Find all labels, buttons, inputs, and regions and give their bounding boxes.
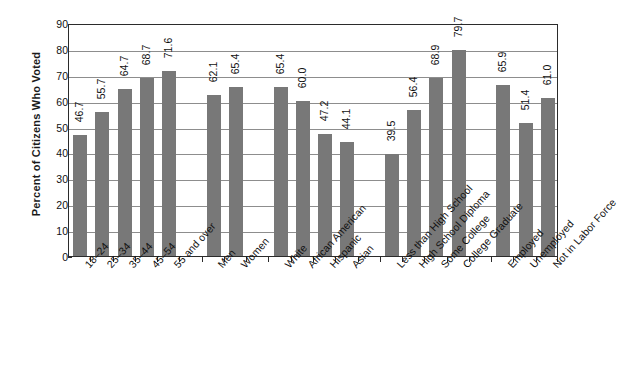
bar-value-label: 55.7 — [95, 72, 107, 106]
y-tick-label: 60 — [14, 97, 68, 107]
y-tick-label: 80 — [14, 45, 68, 55]
y-tick-label: 10 — [14, 226, 68, 236]
y-tick-label: 90 — [14, 19, 68, 29]
bar-slot: 61.0 — [537, 25, 559, 256]
bar-value-label: 68.7 — [140, 38, 152, 72]
bar[interactable] — [274, 87, 288, 256]
bar-value-label: 65.4 — [274, 47, 286, 81]
bar-value-label: 61.0 — [541, 58, 553, 92]
bar-value-label: 62.1 — [207, 55, 219, 89]
bar-slot: 55.7 — [91, 25, 113, 256]
y-tick-label: 30 — [14, 174, 68, 184]
y-axis-ticks: 0102030405060708090 — [0, 24, 68, 257]
bar-value-label: 47.2 — [318, 94, 330, 128]
bar-value-label: 79.7 — [452, 10, 464, 44]
bar[interactable] — [73, 135, 87, 256]
bar-slot: 65.4 — [225, 25, 247, 256]
bar-value-label: 46.7 — [73, 95, 85, 129]
y-tick-label: 50 — [14, 123, 68, 133]
bar[interactable] — [296, 101, 310, 256]
bar-slot: 39.5 — [381, 25, 403, 256]
bar[interactable] — [162, 71, 176, 256]
bar-slot: 68.7 — [136, 25, 158, 256]
bar-value-label: 39.5 — [385, 114, 397, 148]
y-tick-label: 40 — [14, 148, 68, 158]
bar-slot: 51.4 — [514, 25, 536, 256]
y-tick-label: 20 — [14, 200, 68, 210]
y-tick-label: 70 — [14, 71, 68, 81]
bar[interactable] — [118, 89, 132, 257]
y-tick-label: 0 — [14, 252, 68, 262]
bar-value-label: 64.7 — [118, 49, 130, 83]
bar[interactable] — [385, 154, 399, 256]
bar-value-label: 65.4 — [229, 47, 241, 81]
bar-value-label: 65.9 — [496, 45, 508, 79]
bar-value-label: 44.1 — [340, 102, 352, 136]
bar-value-label: 56.4 — [407, 70, 419, 104]
bar-slot: 71.6 — [158, 25, 180, 256]
bar-slot: 60.0 — [292, 25, 314, 256]
bar-slot: 64.7 — [114, 25, 136, 256]
bar-slot: 56.4 — [403, 25, 425, 256]
bar[interactable] — [229, 87, 243, 256]
bar-value-label: 60.0 — [296, 61, 308, 95]
x-axis-labels: 18–2425–3435–4445–5455 and overMenWomenW… — [68, 262, 558, 382]
bar[interactable] — [95, 112, 109, 256]
bar-slot: 65.4 — [269, 25, 291, 256]
bar-slot: 47.2 — [314, 25, 336, 256]
bar-value-label: 51.4 — [519, 83, 531, 117]
bar[interactable] — [140, 78, 154, 256]
bar-value-label: 71.6 — [162, 31, 174, 65]
bar-slot: 46.7 — [69, 25, 91, 256]
bar-value-label: 68.9 — [429, 38, 441, 72]
